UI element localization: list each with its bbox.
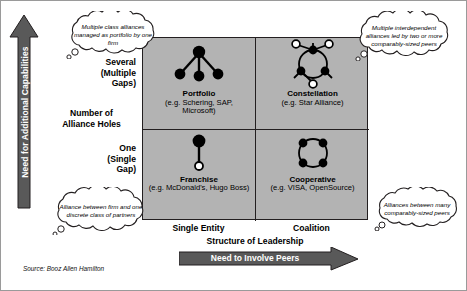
- quadrant-portfolio-caption: Portfolio (e.g. Schering, SAP, Microsoft…: [165, 90, 233, 116]
- y-axis-title-line1: Number of: [70, 108, 113, 118]
- callout-cooperative: Alliances between many comparably-sized …: [367, 187, 467, 231]
- horizontal-axis-arrow: Need to Involve Peers: [179, 247, 359, 271]
- callout-constellation-text: Multiple interdependent alliances led by…: [347, 11, 461, 61]
- quadrant-matrix: Portfolio (e.g. Schering, SAP, Microsoft…: [142, 37, 368, 220]
- quadrant-franchise-caption: Franchise (e.g. McDonald's, Hugo Boss): [149, 176, 250, 193]
- row-label-one-line3: Gap): [116, 164, 136, 174]
- row-label-one-line1: One: [119, 143, 136, 153]
- quadrant-franchise[interactable]: Franchise (e.g. McDonald's, Hugo Boss): [143, 130, 256, 222]
- callout-constellation: Multiple interdependent alliances led by…: [347, 11, 461, 61]
- row-label-several: Several (Multiple Gaps): [50, 57, 136, 89]
- horizontal-axis-arrow-label: Need to Involve Peers: [179, 253, 331, 263]
- y-axis-title-line2: Alliance Holes: [62, 119, 121, 129]
- x-axis-title: Structure of Leadership: [142, 236, 368, 246]
- vertical-axis-arrow: Need for Additional Capabilities: [9, 15, 39, 209]
- quadrant-cooperative-examples-line1: (e.g. VISA, OpenSource): [271, 184, 355, 193]
- quadrant-cooperative-caption: Cooperative (e.g. VISA, OpenSource): [271, 176, 355, 193]
- row-label-one-line2: (Single: [107, 154, 136, 164]
- row-label-one: One (Single Gap): [50, 143, 136, 175]
- quadrant-cooperative[interactable]: Cooperative (e.g. VISA, OpenSource): [256, 130, 369, 222]
- quadrant-constellation-caption: Constellation (e.g. Star Alliance): [281, 90, 343, 107]
- peer-ring-icon: [256, 130, 369, 176]
- vertical-axis-arrow-label: Need for Additional Capabilities: [20, 24, 30, 200]
- callout-franchise: Alliance between firm and one discrete c…: [45, 187, 157, 235]
- dyad-icon: [143, 130, 255, 176]
- row-label-several-line3: Gaps): [112, 78, 136, 88]
- callout-cooperative-text: Alliances between many comparably-sized …: [367, 187, 467, 231]
- quadrant-portfolio-examples-line2: Microsoft): [165, 107, 233, 116]
- source-note: Source: Booz Allen Hamilton: [23, 265, 104, 272]
- callout-franchise-text: Alliance between firm and one discrete c…: [45, 187, 157, 235]
- callout-portfolio-text: Multiple class alliances managed as port…: [59, 11, 167, 59]
- row-label-several-line2: (Multiple: [101, 68, 136, 78]
- callout-portfolio: Multiple class alliances managed as port…: [59, 11, 167, 59]
- quadrant-franchise-examples-line1: (e.g. McDonald's, Hugo Boss): [149, 184, 250, 193]
- diagram-frame: Need for Additional Capabilities Several…: [0, 0, 467, 291]
- column-label-coalition: Coalition: [255, 223, 368, 233]
- column-label-single-entity: Single Entity: [142, 223, 255, 233]
- quadrant-constellation-examples-line1: (e.g. Star Alliance): [281, 99, 343, 108]
- y-axis-title: Number of Alliance Holes: [47, 108, 136, 129]
